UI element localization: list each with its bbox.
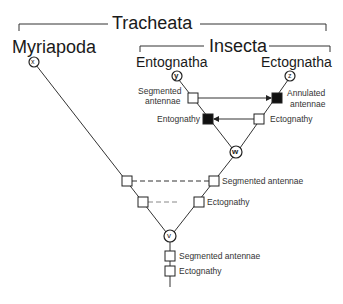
label-annulated: Annulated [287,89,325,98]
label-ectognatha: Ectognatha [261,55,332,69]
label-segmented-y: Segmented [138,87,181,96]
label-antennae-z: antennae [290,100,325,109]
char-ectognathy-w [194,197,204,207]
label-insecta: Insecta [207,37,269,55]
label-tracheata: Tracheata [110,14,194,32]
char-segmented-antennae-w [209,176,219,186]
label-segmented-antennae-stem: Segmented antennae [179,252,260,261]
char-ectognathy-stem [165,266,175,276]
char-left-segmented [122,176,132,186]
label-ectognathy-mid: Ectognathy [207,198,250,207]
char-entognathy [203,114,213,124]
label-ectognathy-w: Ectognathy [270,115,313,124]
node-v-letter: v [167,232,171,240]
char-ectognathy-z [254,114,264,124]
label-ectognathy-stem: Ectognathy [179,267,222,276]
char-segmented-antennae-stem [165,251,175,261]
label-segmented-antennae-mid: Segmented antennae [222,177,303,186]
node-y-letter: y [174,72,178,80]
label-myriapoda: Myriapoda [12,38,96,56]
label-entognathy: Entognathy [157,115,200,124]
label-antennae-y: antennae [145,97,180,106]
node-x-letter: x [31,58,35,65]
branch-insecta [174,157,233,232]
node-w-letter: w [232,148,238,156]
node-z-letter: z [288,72,292,79]
char-left-ectognathy [138,197,148,207]
char-annulated-antennae [272,93,282,103]
char-segmented-antennae-y [188,93,198,103]
label-entognatha: Entognatha [136,55,208,69]
